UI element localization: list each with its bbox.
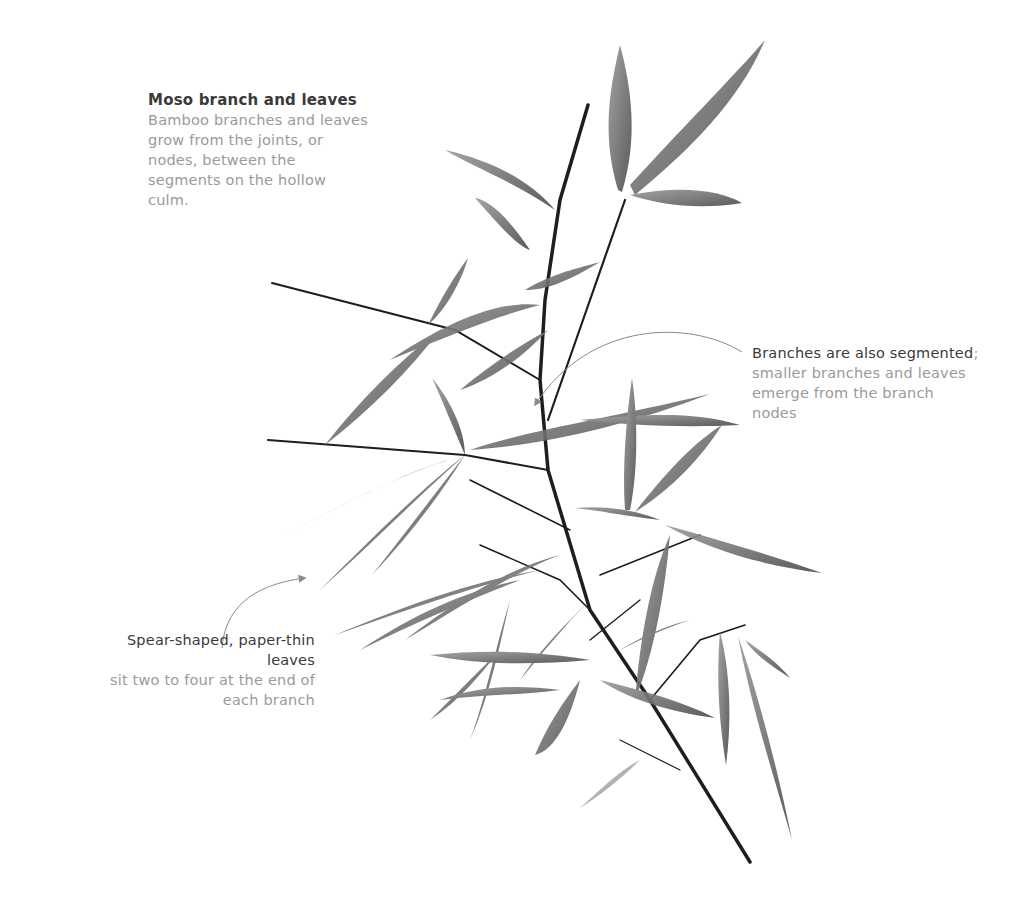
annotation-body: sit two to four at the end of each branc… [110,672,315,708]
annotation-body: smaller branches and leaves emerge from … [752,365,966,421]
annotation-branch-and-leaves: Moso branch and leaves Bamboo branches a… [148,90,368,210]
annotation-body: Bamboo branches and leaves grow from the… [148,112,368,208]
annotation-strong-text: Branches are also segmented [752,345,973,361]
annotation-segmented-branches: Branches are also segmented; smaller bra… [752,343,982,423]
stems [268,105,750,862]
annotation-strong-text: Spear-shaped, paper-thin leaves [127,632,315,668]
annotation-spear-shaped-leaves: Spear-shaped, paper-thin leaves sit two … [100,630,315,710]
callout-line-right [535,332,742,405]
annotation-title: Moso branch and leaves [148,90,368,110]
annotation-punct: ; [973,345,978,361]
